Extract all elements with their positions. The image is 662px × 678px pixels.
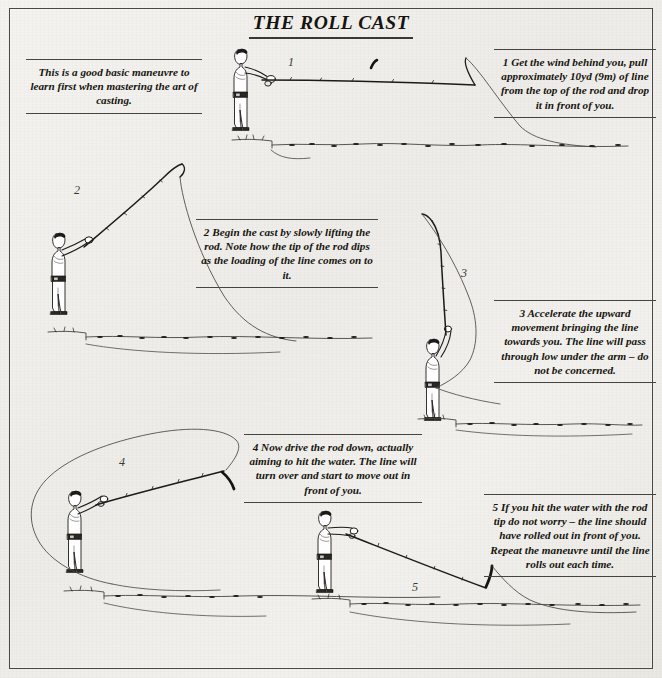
step-5-caption: 5 If you hit the water with the rod tip … (484, 494, 656, 577)
step-4-caption: 4 Now drive the rod down, actually aimin… (244, 434, 422, 503)
intro-caption: This is a good basic maneuvre to learn f… (26, 59, 202, 114)
figure-number-5: 5 (412, 580, 418, 595)
figure-number-4: 4 (119, 455, 125, 470)
step-2-caption: 2 Begin the cast by slowly lifting the r… (196, 219, 378, 288)
step-3-caption: 3 Accelerate the upward movement bringin… (494, 300, 656, 383)
figure-number-2: 2 (74, 183, 80, 198)
page-title-text: THE ROLL CAST (249, 12, 414, 39)
figure-number-3: 3 (461, 266, 467, 281)
page-title: THE ROLL CAST (0, 12, 662, 39)
step-1-caption: 1 Get the wind behind you, pull approxim… (494, 49, 656, 118)
figure-number-1: 1 (288, 55, 294, 70)
